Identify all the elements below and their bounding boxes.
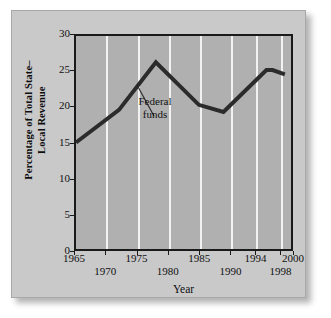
y-tick-label: 20 <box>44 100 70 111</box>
x-axis-ticks: 196519701975198019851990199419982000 <box>74 251 293 285</box>
series-layer <box>76 36 291 249</box>
series-annotation-federal-funds: Federal funds <box>124 95 186 122</box>
x-tick-label: 1980 <box>157 266 179 277</box>
chart-card: Percentage of Total State– Local Revenue… <box>11 10 306 298</box>
y-tick-label: 30 <box>44 28 70 39</box>
y-tick-label: 10 <box>44 173 70 184</box>
annotation-line2: funds <box>143 108 167 120</box>
x-tick-mark <box>230 251 231 255</box>
plot-area <box>74 34 293 251</box>
x-tick-mark <box>74 251 75 255</box>
y-tick-label: 25 <box>44 64 70 75</box>
y-tick-label: 5 <box>44 209 70 220</box>
x-tick-label: 1990 <box>219 266 241 277</box>
x-tick-mark <box>199 251 200 255</box>
x-tick-label: 1998 <box>269 266 291 277</box>
x-tick-mark <box>255 251 256 255</box>
x-tick-mark <box>293 251 294 255</box>
x-axis-title: Year <box>74 283 293 295</box>
y-axis-ticks: 051015202530 <box>36 34 70 251</box>
annotation-line1: Federal <box>139 95 172 107</box>
x-tick-mark <box>168 251 169 255</box>
x-tick-mark <box>137 251 138 255</box>
y-axis-title-line1: Percentage of Total State– <box>23 60 34 179</box>
chart-figure: Percentage of Total State– Local Revenue… <box>0 0 331 318</box>
x-tick-mark <box>105 251 106 255</box>
x-tick-label: 1970 <box>94 266 116 277</box>
y-tick-label: 15 <box>44 137 70 148</box>
